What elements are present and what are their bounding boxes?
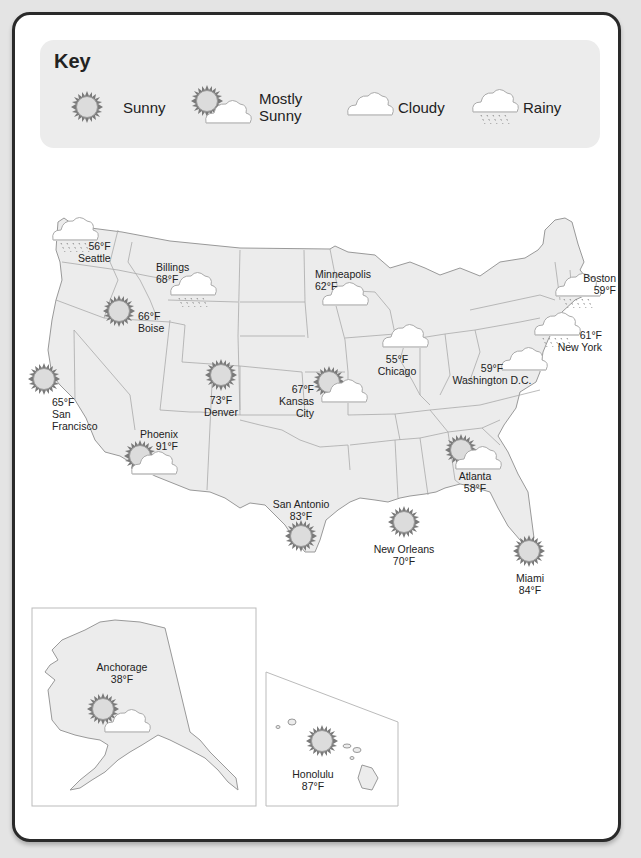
city-new-orleans: New Orleans 70°F (370, 543, 438, 567)
san-antonio-temp: 83°F (268, 510, 334, 522)
city-kansas-city: 67°F Kansas City (272, 383, 314, 419)
city-atlanta: Atlanta 58°F (452, 470, 498, 494)
kansas-city-name-line1: Kansas (272, 395, 314, 407)
anchorage-name: Anchorage (92, 661, 152, 673)
chicago-temp: 55°F (374, 353, 420, 365)
minneapolis-name: Minneapolis (315, 268, 371, 280)
atlanta-name: Atlanta (452, 470, 498, 482)
washington-dc-name: Washington D.C. (452, 374, 532, 386)
city-boston: Boston 59°F (580, 272, 616, 296)
san-francisco-name-line2: Francisco (52, 420, 98, 432)
new-orleans-sunny-icon (388, 506, 420, 538)
anchorage-temp: 38°F (92, 673, 152, 685)
city-boise: 66°F Boise (138, 310, 164, 334)
seattle-name: Seattle (78, 252, 111, 264)
city-san-antonio: San Antonio 83°F (268, 498, 334, 522)
new-york-temp: 61°F (556, 329, 602, 341)
city-new-york: 61°F New York (556, 329, 602, 353)
city-minneapolis: Minneapolis 62°F (315, 268, 371, 292)
city-seattle: 56°F Seattle (78, 240, 111, 264)
phoenix-name: Phoenix (136, 428, 178, 440)
billings-name: Billings (156, 261, 189, 273)
city-miami: Miami 84°F (510, 572, 550, 596)
miami-temp: 84°F (510, 584, 550, 596)
denver-name: Denver (200, 406, 242, 418)
new-york-name: New York (556, 341, 602, 353)
kansas-city-name-line2: City (272, 407, 314, 419)
honolulu-temp: 87°F (288, 780, 338, 792)
city-washington-dc: 59°F Washington D.C. (452, 362, 532, 386)
seattle-temp: 56°F (78, 240, 111, 252)
city-chicago: 55°F Chicago (374, 353, 420, 377)
city-honolulu: Honolulu 87°F (288, 768, 338, 792)
boise-temp: 66°F (138, 310, 164, 322)
kansas-city-temp: 67°F (272, 383, 314, 395)
new-orleans-temp: 70°F (370, 555, 438, 567)
boston-name: Boston (580, 272, 616, 284)
city-phoenix: Phoenix 91°F (136, 428, 178, 452)
atlanta-temp: 58°F (452, 482, 498, 494)
san-francisco-name-line1: San (52, 408, 98, 420)
city-anchorage: Anchorage 38°F (92, 661, 152, 685)
billings-temp: 68°F (156, 273, 189, 285)
chicago-name: Chicago (374, 365, 420, 377)
boston-temp: 59°F (580, 284, 616, 296)
san-francisco-temp: 65°F (52, 396, 98, 408)
honolulu-name: Honolulu (288, 768, 338, 780)
boise-name: Boise (138, 322, 164, 334)
city-san-francisco: 65°F San Francisco (52, 396, 98, 432)
minneapolis-temp: 62°F (315, 280, 371, 292)
new-orleans-name: New Orleans (370, 543, 438, 555)
city-denver: 73°F Denver (200, 394, 242, 418)
washington-dc-temp: 59°F (452, 362, 532, 374)
denver-temp: 73°F (200, 394, 242, 406)
phoenix-temp: 91°F (136, 440, 178, 452)
miami-sunny-icon (513, 535, 545, 567)
miami-name: Miami (510, 572, 550, 584)
san-antonio-name: San Antonio (268, 498, 334, 510)
city-billings: Billings 68°F (156, 261, 189, 285)
